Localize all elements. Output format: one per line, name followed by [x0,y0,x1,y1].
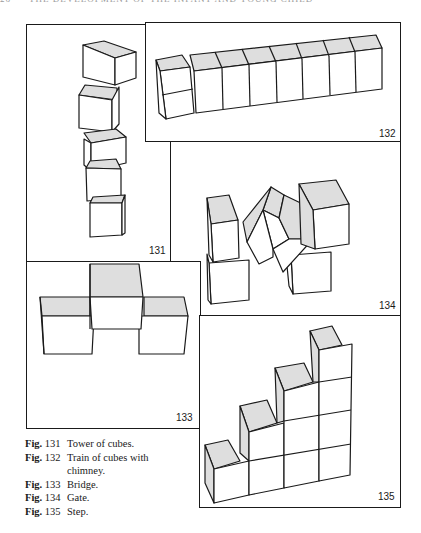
caption-label: Fig. [25,506,42,517]
figure-number-132: 132 [379,128,396,139]
running-head: 26THE DEVELOPMENT OF THE INFANT AND YOUN… [0,0,421,4]
caption-number: 132 [45,452,61,463]
caption-133: Fig. 133 Bridge. [25,478,187,492]
caption-label: Fig. [25,438,42,449]
caption-135: Fig. 135 Step. [25,505,187,519]
figure-132-panel: 132 [145,22,401,142]
caption-text: Train of cubes with chimney. [67,451,187,478]
gate-illustration [171,142,402,317]
caption-text: Gate. [67,491,187,505]
running-head-title: THE DEVELOPMENT OF THE INFANT AND YOUNG … [29,0,313,4]
caption-text: Tower of cubes. [67,437,187,451]
figure-number-131: 131 [149,245,166,256]
caption-label: Fig. [25,452,42,463]
caption-number: 133 [45,479,61,490]
figure-number-133: 133 [176,412,193,423]
caption-131: Fig. 131 Tower of cubes. [25,437,187,451]
train-of-cubes-illustration [146,23,402,143]
caption-text: Bridge. [67,478,187,492]
step-illustration [200,316,402,509]
page-number: 26 [0,0,11,4]
caption-number: 131 [45,438,61,449]
caption-text: Step. [67,505,187,519]
bridge-illustration [27,262,202,430]
caption-134: Fig. 134 Gate. [25,491,187,505]
caption-number: 135 [45,506,61,517]
figure-133-panel: 133 [26,261,201,429]
figure-number-135: 135 [378,491,395,502]
caption-label: Fig. [25,479,42,490]
figure-captions: Fig. 131 Tower of cubes. Fig. 132 Train … [25,437,187,518]
caption-label: Fig. [25,492,42,503]
caption-132: Fig. 132 Train of cubes with chimney. [25,451,187,478]
figure-134-panel: 134 [170,141,401,316]
figure-number-134: 134 [379,300,396,311]
figure-135-panel: 135 [199,315,401,508]
caption-number: 134 [45,492,61,503]
